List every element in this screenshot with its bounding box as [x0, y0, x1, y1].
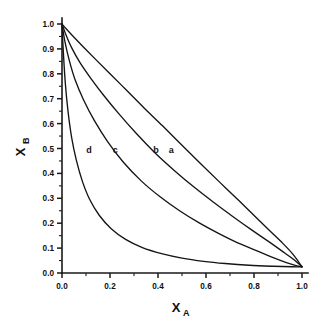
y-axis-title-base: X	[13, 147, 28, 156]
y-tick-label: 0.9	[43, 45, 55, 54]
y-tick-label: 0.8	[43, 70, 55, 79]
x-tick-label: 0.0	[56, 282, 68, 291]
y-tick-label: 0.1	[43, 244, 55, 253]
y-tick-label: 0.6	[43, 120, 55, 129]
y-tick-label: 0.2	[43, 219, 55, 228]
x-tick-label: 0.8	[248, 282, 260, 291]
x-tick-label: 0.2	[104, 282, 116, 291]
y-tick-label: 0.4	[43, 169, 55, 178]
x-axis-title-base: X	[172, 300, 181, 315]
chart-figure: 0.00.10.20.30.40.50.60.70.80.91.0 0.00.2…	[0, 0, 335, 325]
y-axis-title-subscript: B	[21, 137, 31, 144]
y-tick-label: 0.5	[43, 145, 55, 154]
curve-label-c: c	[113, 145, 118, 155]
xa-xb-phase-diagram: 0.00.10.20.30.40.50.60.70.80.91.0 0.00.2…	[0, 0, 335, 325]
x-tick-label: 0.6	[200, 282, 212, 291]
curve-label-b: b	[153, 145, 159, 155]
x-axis-title-subscript: A	[183, 308, 190, 318]
y-tick-label: 0.0	[43, 269, 55, 278]
y-tick-label: 0.7	[43, 95, 55, 104]
y-tick-label: 1.0	[43, 20, 55, 29]
y-tick-label: 0.3	[43, 194, 55, 203]
x-tick-label: 0.4	[152, 282, 164, 291]
curve-label-d: d	[86, 145, 92, 155]
x-tick-label: 1.0	[296, 282, 308, 291]
